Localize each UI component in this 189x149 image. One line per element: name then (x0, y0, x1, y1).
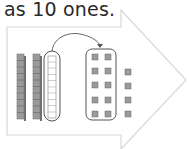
tens-rod-2 (33, 54, 42, 121)
regroup-figure (0, 0, 189, 149)
tens-rod-1 (17, 54, 26, 121)
